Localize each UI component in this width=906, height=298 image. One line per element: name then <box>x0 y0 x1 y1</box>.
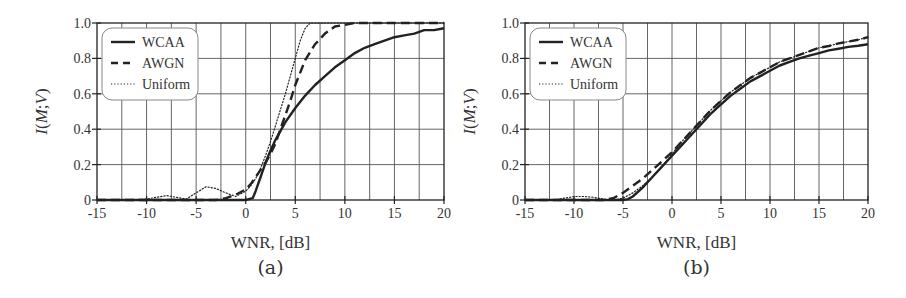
legend-label-uniform: Uniform <box>142 77 190 92</box>
x-tick-label: 0 <box>669 206 676 221</box>
chart-panel-a: -15-10-50510152000.20.40.60.81.0 WCAAAWG… <box>32 16 451 278</box>
y-tick-label: 0.2 <box>74 158 92 173</box>
y-tick-label: 0 <box>84 193 91 208</box>
y-tick-label: 1.0 <box>74 16 92 31</box>
y-axis-label: I(M;V) <box>32 88 51 135</box>
y-tick-label: 0.6 <box>74 87 92 102</box>
y-tick-label: 0.4 <box>502 122 520 137</box>
x-tick-label: 0 <box>242 206 249 221</box>
panel-caption: (a) <box>257 256 283 278</box>
y-axis-label: I(M;V) <box>460 88 479 135</box>
x-tick-label: 20 <box>437 206 451 221</box>
x-axis-label: WNR, [dB] <box>657 233 736 252</box>
x-tick-label: -10 <box>137 206 156 221</box>
legend-label-uniform: Uniform <box>570 77 618 92</box>
y-tick-label: 0.4 <box>74 122 92 137</box>
y-tick-label: 1.0 <box>502 16 520 31</box>
legend-label-wcaa: WCAA <box>570 35 614 50</box>
y-tick-label: 0.8 <box>74 51 92 66</box>
y-tick-label: 0 <box>512 193 519 208</box>
x-tick-label: -15 <box>88 206 107 221</box>
panel-caption: (b) <box>683 256 710 278</box>
y-tick-label: 0.6 <box>502 87 520 102</box>
x-tick-label: 10 <box>338 206 352 221</box>
x-tick-label: 10 <box>763 206 777 221</box>
legend-label-awgn: AWGN <box>570 56 612 71</box>
x-tick-label: 5 <box>292 206 299 221</box>
legend: WCAAAWGNUniform <box>102 28 198 100</box>
x-tick-label: 5 <box>718 206 725 221</box>
figure: -15-10-50510152000.20.40.60.81.0 WCAAAWG… <box>0 0 906 298</box>
legend: WCAAAWGNUniform <box>530 28 626 100</box>
x-tick-label: 15 <box>812 206 826 221</box>
x-tick-label: 20 <box>861 206 875 221</box>
x-tick-label: -5 <box>190 206 202 221</box>
x-tick-label: 15 <box>387 206 401 221</box>
x-tick-label: -15 <box>516 206 535 221</box>
y-tick-label: 0.2 <box>502 158 520 173</box>
y-tick-label: 0.8 <box>502 51 520 66</box>
x-tick-label: -5 <box>617 206 629 221</box>
legend-label-awgn: AWGN <box>142 56 184 71</box>
figure-canvas: -15-10-50510152000.20.40.60.81.0 WCAAAWG… <box>0 0 906 298</box>
legend-label-wcaa: WCAA <box>142 35 186 50</box>
x-axis-label: WNR, [dB] <box>231 233 310 252</box>
chart-panel-b: -15-10-50510152000.20.40.60.81.0 WCAAAWG… <box>460 16 875 278</box>
x-tick-label: -10 <box>565 206 584 221</box>
